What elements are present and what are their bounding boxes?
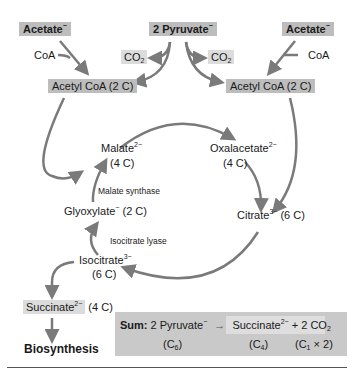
sum-carbons-co2: (C1 × 2) xyxy=(295,338,333,350)
coa-left-label: CoA xyxy=(34,49,55,61)
isocitrate-carbons: (6 C) xyxy=(92,268,116,280)
sum-equation: Sum: 2 Pyruvate− → Succinate2− + 2 CO2 xyxy=(120,319,331,331)
oxalacetate-carbons: (4 C) xyxy=(223,157,247,169)
co2-right-label: CO2 xyxy=(208,50,234,64)
enzyme-isocitrate-lyase: Isocitrate lyase xyxy=(110,236,167,246)
arrow-acetate-right xyxy=(270,41,295,72)
oxalacetate-label: Oxalacetate2− xyxy=(210,142,277,154)
malate-carbons: (4 C) xyxy=(110,157,134,169)
sum-carbons-product: (C4) xyxy=(249,338,268,350)
acetyl-coa-right-box: Acetyl CoA (2 C) xyxy=(226,79,315,93)
coa-right-label: CoA xyxy=(308,49,329,61)
acetate-right-label: Acetate− xyxy=(282,22,334,36)
glyoxylate-label: Glyoxylate− (2 C) xyxy=(64,205,147,217)
bottom-rule xyxy=(7,367,347,368)
enzyme-malate-synthase: Malate synthase xyxy=(98,186,160,196)
citrate-label: Citrate3− (6 C) xyxy=(237,209,305,221)
sum-carbons-reactant: (C6) xyxy=(163,338,182,350)
acetate-left-label: Acetate− xyxy=(19,22,71,36)
biosynthesis-label: Biosynthesis xyxy=(24,342,99,356)
reaction-arrow-icon: → xyxy=(214,319,225,331)
isocitrate-label: Isocitrate3− xyxy=(79,254,132,266)
acetyl-coa-left-box: Acetyl CoA (2 C) xyxy=(48,79,137,93)
succinate-label: Succinate2− (4 C) xyxy=(23,301,113,313)
co2-left-label: CO2 xyxy=(121,50,147,64)
pyruvate-label: 2 Pyruvate− xyxy=(149,22,217,36)
malate-label: Malate2− xyxy=(101,142,142,154)
